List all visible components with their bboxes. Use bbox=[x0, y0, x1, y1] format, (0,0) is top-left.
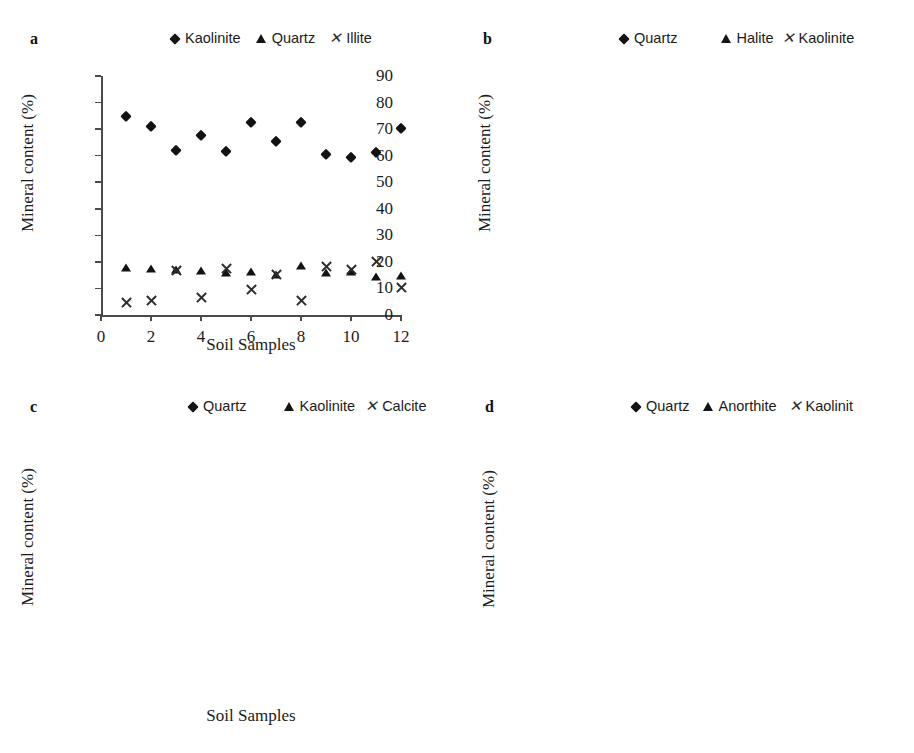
y-axis-tick-label: 70 bbox=[376, 119, 393, 139]
panel-label-a: a bbox=[30, 30, 38, 48]
legend-label: Kaolinite bbox=[185, 30, 241, 46]
legend-label: Kaolinite bbox=[799, 30, 855, 46]
data-point-kaolinite-12 bbox=[396, 123, 407, 134]
diamond-marker bbox=[186, 398, 199, 414]
diamond-marker bbox=[617, 30, 630, 46]
y-axis-title: Mineral content (%) bbox=[18, 468, 38, 606]
panel-label-b: b bbox=[483, 30, 492, 48]
data-point-quartz-12 bbox=[396, 271, 406, 279]
panel-label-d: d bbox=[485, 398, 494, 416]
y-axis-tick-label: 80 bbox=[376, 93, 393, 113]
legend-item-kaolinite: Kaolinite bbox=[283, 398, 356, 414]
data-point-kaolinite-1 bbox=[121, 111, 132, 122]
data-point-kaolinite-4 bbox=[196, 130, 207, 141]
legend-item-quartz: Quartz bbox=[617, 30, 678, 46]
legend-label: Halite bbox=[737, 30, 774, 46]
x-axis-tick bbox=[300, 315, 302, 321]
y-axis-tick bbox=[95, 235, 101, 237]
data-point-illite-11 bbox=[371, 256, 382, 267]
legend-item-kaolinit: ✕Kaolinit bbox=[789, 398, 854, 414]
x-axis-title: Soil Samples bbox=[206, 335, 295, 355]
x-axis-tick-label: 10 bbox=[343, 327, 360, 347]
data-point-quartz-8 bbox=[296, 262, 306, 270]
data-point-illite-2 bbox=[146, 295, 157, 306]
y-axis-tick-label: 90 bbox=[376, 66, 393, 86]
data-point-illite-8 bbox=[296, 295, 307, 306]
data-point-illite-5 bbox=[221, 263, 232, 274]
y-axis-tick-label: 50 bbox=[376, 172, 393, 192]
figure-caption-cut-off bbox=[0, 743, 914, 753]
data-point-quartz-6 bbox=[246, 267, 256, 275]
legend-item-kaolinite: Kaolinite bbox=[168, 30, 241, 46]
data-point-illite-4 bbox=[196, 292, 207, 303]
legend-panel-a: KaoliniteQuartz✕Illite bbox=[168, 30, 372, 46]
data-point-illite-3 bbox=[171, 265, 182, 276]
data-point-kaolinite-5 bbox=[221, 146, 232, 157]
y-axis-tick bbox=[95, 181, 101, 183]
cross-marker: ✕ bbox=[329, 30, 342, 46]
x-axis-tick bbox=[250, 315, 252, 321]
panel-a: aKaoliniteQuartz✕Illite01020304050607080… bbox=[0, 0, 457, 376]
data-point-illite-6 bbox=[246, 284, 257, 295]
legend-label: Quartz bbox=[203, 398, 247, 414]
x-axis-title: Soil Samples bbox=[206, 706, 295, 726]
triangle-marker bbox=[702, 398, 715, 414]
y-axis-title: Mineral content (%) bbox=[18, 94, 38, 232]
y-axis-title: Mineral content (%) bbox=[479, 470, 499, 608]
data-point-illite-9 bbox=[321, 261, 332, 272]
data-point-quartz-1 bbox=[121, 264, 131, 272]
data-point-kaolinite-9 bbox=[321, 149, 332, 160]
legend-label: Quartz bbox=[634, 30, 678, 46]
legend-label: Anorthite bbox=[719, 398, 777, 414]
y-axis-tick bbox=[95, 208, 101, 210]
x-axis-tick bbox=[100, 315, 102, 321]
legend-label: Calcite bbox=[382, 398, 426, 414]
x-axis-tick-label: 4 bbox=[197, 327, 206, 347]
panel-d: dQuartzAnorthite✕Kaolinit010203040506070… bbox=[457, 376, 914, 753]
data-point-kaolinite-2 bbox=[146, 121, 157, 132]
data-point-kaolinite-8 bbox=[296, 117, 307, 128]
legend-item-quartz: Quartz bbox=[255, 30, 316, 46]
triangle-marker bbox=[720, 30, 733, 46]
x-axis-tick-label: 2 bbox=[147, 327, 156, 347]
diamond-marker bbox=[629, 398, 642, 414]
x-axis-tick bbox=[150, 315, 152, 321]
diamond-marker bbox=[168, 30, 181, 46]
cross-marker: ✕ bbox=[365, 398, 378, 414]
y-axis-tick bbox=[95, 75, 101, 77]
legend-label: Quartz bbox=[646, 398, 690, 414]
cross-marker: ✕ bbox=[789, 398, 802, 414]
legend-item-kaolinite: ✕Kaolinite bbox=[782, 30, 855, 46]
triangle-marker bbox=[283, 398, 296, 414]
legend-panel-b: QuartzHalite✕Kaolinite bbox=[617, 30, 854, 46]
cross-marker: ✕ bbox=[782, 30, 795, 46]
data-point-quartz-11 bbox=[371, 273, 381, 281]
x-axis-tick bbox=[350, 315, 352, 321]
x-axis-tick-label: 12 bbox=[393, 327, 410, 347]
y-axis-line bbox=[101, 76, 103, 315]
y-axis-title: Mineral content (%) bbox=[475, 94, 495, 232]
y-axis-tick-label: 40 bbox=[376, 199, 393, 219]
panel-c: cQuartzKaolinite✕Calcite0102030405060708… bbox=[0, 376, 457, 753]
y-axis-tick bbox=[95, 155, 101, 157]
data-point-quartz-4 bbox=[196, 267, 206, 275]
data-point-illite-10 bbox=[346, 264, 357, 275]
legend-label: Kaolinite bbox=[300, 398, 356, 414]
data-point-illite-12 bbox=[396, 282, 407, 293]
data-point-quartz-2 bbox=[146, 264, 156, 272]
y-axis-tick bbox=[95, 102, 101, 104]
mineral-content-figure: aKaoliniteQuartz✕Illite01020304050607080… bbox=[0, 0, 914, 753]
x-axis-tick-label: 0 bbox=[97, 327, 106, 347]
y-axis-tick-label: 10 bbox=[376, 278, 393, 298]
x-axis-tick bbox=[400, 315, 402, 321]
x-axis-tick-label: 8 bbox=[297, 327, 306, 347]
legend-panel-c: QuartzKaolinite✕Calcite bbox=[186, 398, 426, 414]
data-point-kaolinite-7 bbox=[271, 135, 282, 146]
legend-item-illite: ✕Illite bbox=[329, 30, 372, 46]
y-axis-tick bbox=[95, 288, 101, 290]
legend-label: Quartz bbox=[272, 30, 316, 46]
y-axis-tick-label: 30 bbox=[376, 225, 393, 245]
plot-area-a: 0102030405060708090024681012 bbox=[101, 76, 401, 315]
legend-panel-d: QuartzAnorthite✕Kaolinit bbox=[629, 398, 853, 414]
panel-b: bQuartzHalite✕Kaolinite01020304050607080… bbox=[457, 0, 914, 376]
